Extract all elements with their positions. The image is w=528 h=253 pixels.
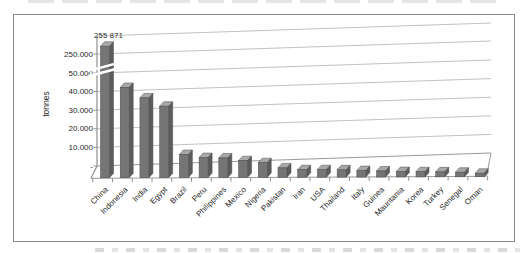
bar-side-face: [149, 93, 153, 177]
bar-side-face: [110, 42, 114, 178]
wall-top-edge: [97, 23, 491, 36]
bar-column: [140, 98, 149, 178]
bar-column: [475, 173, 484, 177]
gridline: [97, 60, 491, 73]
bar-column: [258, 163, 267, 178]
category-label: Iran: [291, 185, 307, 201]
category-label: Italy: [350, 185, 367, 202]
y-tick-label: 20.000: [69, 124, 94, 133]
bar-column: [357, 171, 366, 178]
bar-column: [199, 158, 208, 178]
category-label: Oman: [463, 185, 485, 207]
bar-column: [416, 172, 425, 177]
gridline: [97, 116, 491, 129]
bar-column: [278, 168, 287, 177]
gridline: [97, 41, 491, 54]
bar-side-face: [188, 150, 192, 178]
category-label: India: [131, 185, 150, 204]
bar-column: [317, 170, 326, 178]
bar-side-face: [228, 153, 232, 177]
bar-column: [239, 161, 248, 178]
bar-side-face: [169, 102, 173, 178]
y-tick-label: 250.000: [64, 50, 93, 59]
data-label-china: 255 871: [94, 31, 123, 40]
bar-side-face: [129, 83, 133, 178]
category-label: Egypt: [148, 185, 169, 206]
bar-column: [436, 172, 445, 177]
category-label: Brazil: [168, 185, 189, 206]
bar-chart: 250.00050.00040.00030.00020.00010.000-Ch…: [0, 0, 528, 253]
bar-column: [298, 170, 307, 178]
bar-column: [396, 172, 405, 177]
bar-column: [377, 171, 386, 177]
y-tick-label: 30.000: [69, 106, 94, 115]
bar-column: [455, 172, 464, 177]
y-tick-label: -: [90, 162, 93, 171]
y-tick-label: 40.000: [69, 87, 94, 96]
category-label: Mexico: [224, 185, 249, 210]
gridline: [97, 79, 491, 92]
bar-side-face: [208, 153, 212, 177]
chart-image: 250.00050.00040.00030.00020.00010.000-Ch…: [0, 0, 528, 253]
bar-column: [219, 158, 228, 178]
bar-column: [179, 154, 188, 177]
y-tick-label: 10.000: [69, 143, 94, 152]
bar-column: [120, 87, 129, 177]
gridline: [97, 134, 491, 147]
bar-column: [337, 170, 346, 177]
y-axis-title: tonnes: [41, 91, 51, 117]
gridline: [97, 97, 491, 110]
bar-column: [160, 106, 169, 177]
